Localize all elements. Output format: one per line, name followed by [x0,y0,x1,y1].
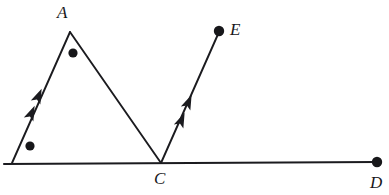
diagram-canvas [0,0,389,195]
direction-arrow-marks [24,87,197,129]
segment-AC [70,32,161,163]
point-dots [25,26,382,167]
dot-interior-near-B [25,141,34,150]
arrow-CE-upper-icon [181,93,197,111]
vertex-label-d: D [370,174,382,191]
arrow-CE-lower-icon [174,111,190,129]
geometry-figure: A C D E [0,0,389,195]
vertex-label-a: A [57,4,67,21]
dot-endpoint-E [214,26,224,36]
segment-BD-baseline [4,162,377,164]
dot-interior-near-A [68,48,77,57]
vertex-label-e: E [230,21,240,38]
segment-BA [12,32,70,163]
vertex-label-c: C [154,170,165,187]
dot-endpoint-D [372,157,382,167]
